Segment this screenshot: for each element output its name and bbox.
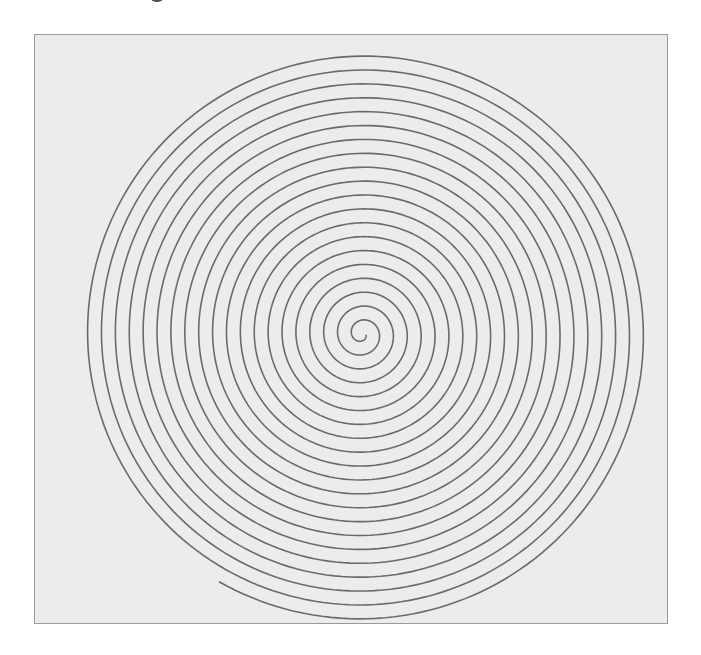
spiral-diagram <box>0 0 701 655</box>
spiral-line <box>88 56 644 619</box>
